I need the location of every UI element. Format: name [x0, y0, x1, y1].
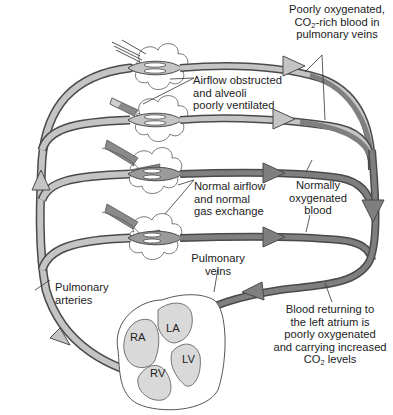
label-pulmonary-arteries: Pulmonary arteries	[55, 281, 108, 306]
label-poorly-oxygenated: Poorly oxygenated, CO2-rich blood in pul…	[283, 3, 391, 41]
bronchiole-obstructed-2	[110, 98, 138, 116]
heart	[117, 295, 225, 410]
heart-label-lv: LV	[182, 353, 195, 366]
label-airflow-obstructed: Airflow obstructed and alveoli poorly ve…	[193, 74, 282, 112]
alveoli	[129, 44, 187, 260]
arrow-right-icon-4	[263, 227, 285, 247]
label-normally-oxygenated: Normally oxygenated blood	[282, 179, 354, 217]
up-arrow-icon	[32, 170, 50, 190]
label-pulmonary-veins: Pulmonary veins	[190, 252, 246, 277]
label-blood-returning: Blood returning to the left atrium is po…	[270, 303, 390, 366]
heart-label-la: LA	[166, 322, 180, 335]
label-normal-airflow: Normal airflow and normal gas exchange	[194, 180, 266, 218]
heart-label-rv: RV	[150, 367, 165, 380]
heart-label-ra: RA	[130, 331, 146, 344]
arrow-down-icon	[362, 200, 384, 222]
arrow-right-icon-2	[273, 109, 295, 129]
